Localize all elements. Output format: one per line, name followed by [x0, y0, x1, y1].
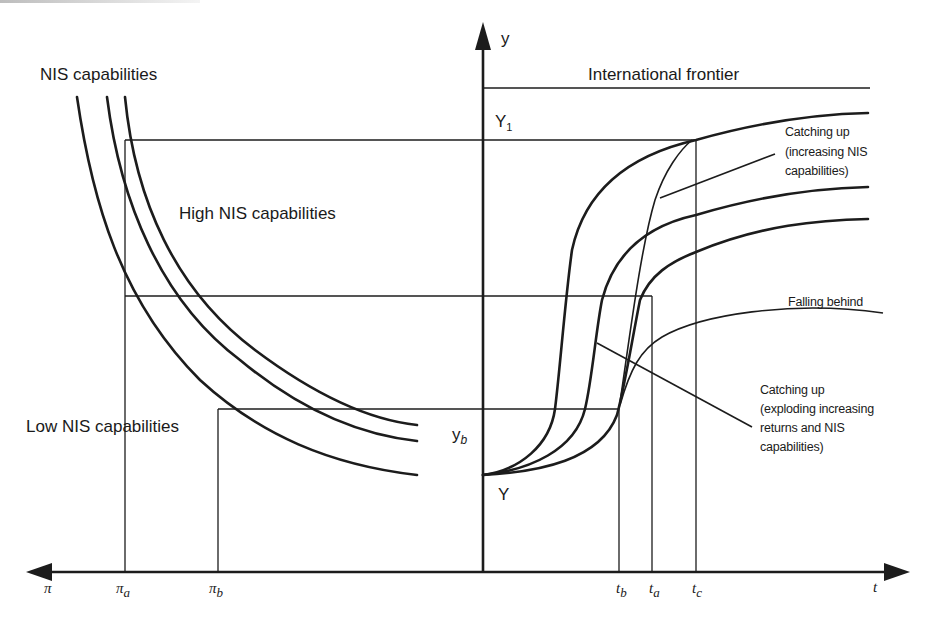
- labels: NIS capabilities High NIS capabilities L…: [26, 29, 878, 600]
- ta-tick-label: ta: [649, 580, 660, 600]
- t-axis-label: t: [873, 579, 878, 595]
- international-frontier-label: International frontier: [588, 65, 740, 84]
- leader-line-catching-up-exploding: [597, 343, 752, 427]
- pi-a-tick-label: πa: [116, 580, 131, 600]
- svg-text:returns and NIS: returns and NIS: [760, 421, 845, 435]
- pi-axis-label: π: [44, 580, 52, 596]
- svg-text:Catching up: Catching up: [785, 125, 850, 139]
- yb-label: yb: [452, 425, 468, 447]
- high-nis-capabilities-label: High NIS capabilities: [179, 204, 336, 223]
- low-nis-capabilities-label: Low NIS capabilities: [26, 417, 179, 436]
- svg-text:Catching up: Catching up: [760, 383, 825, 397]
- annotation-catching-up-exploding: Catching up (exploding increasing return…: [760, 383, 874, 454]
- nis-catching-up-diagram: NIS capabilities High NIS capabilities L…: [0, 0, 928, 618]
- svg-text:(increasing NIS: (increasing NIS: [785, 145, 867, 159]
- leader-line-catching-up-nis: [660, 154, 775, 198]
- nis-capabilities-title: NIS capabilities: [40, 65, 157, 84]
- pi-b-tick-label: πb: [209, 580, 224, 600]
- tc-tick-label: tc: [692, 580, 702, 600]
- t-axis-arrow-icon: [884, 563, 910, 581]
- path-catching-up-exploding: [483, 219, 868, 475]
- annotation-catching-up-nis: Catching up (increasing NIS capabilities…: [785, 125, 867, 178]
- pi-axis-arrow-icon: [26, 563, 52, 581]
- y-axis-arrow-icon: [475, 22, 491, 50]
- svg-text:capabilities): capabilities): [760, 440, 823, 454]
- path-falling-behind: [620, 308, 883, 405]
- svg-text:(exploding increasing: (exploding increasing: [760, 402, 874, 416]
- tb-tick-label: tb: [616, 580, 627, 600]
- y0-label: Y: [498, 485, 509, 504]
- axes: [26, 22, 910, 581]
- falling-behind-label: Falling behind: [788, 295, 863, 309]
- y-axis-label: y: [501, 29, 510, 48]
- y1-label: Y1: [495, 112, 512, 133]
- nis-curve-3: [125, 97, 417, 425]
- svg-text:capabilities): capabilities): [785, 164, 848, 178]
- nis-curve-2: [107, 97, 417, 441]
